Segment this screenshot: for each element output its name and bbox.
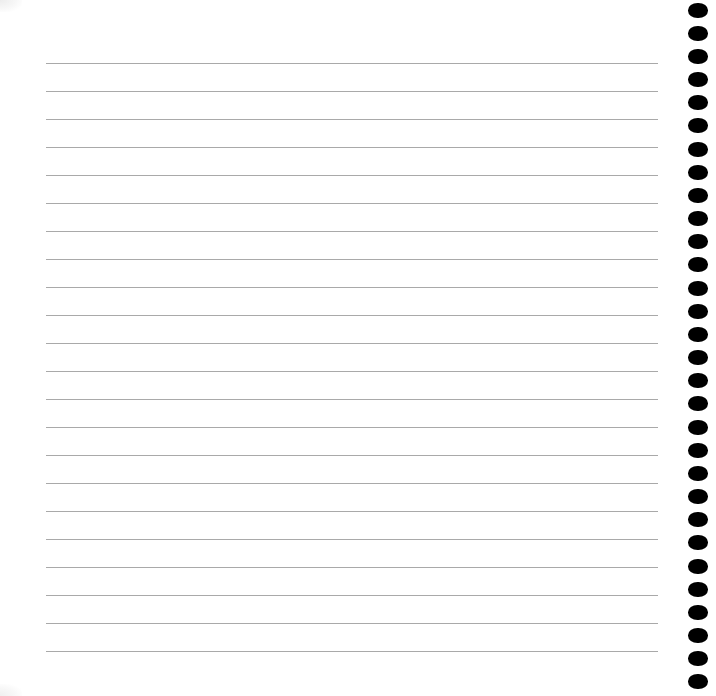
binding-hole-icon: [688, 605, 708, 620]
binding-hole-icon: [688, 142, 708, 157]
ruled-line: [46, 91, 658, 92]
ruled-line: [46, 287, 658, 288]
ruled-line: [46, 651, 658, 652]
binding-hole-icon: [688, 512, 708, 527]
binding-hole-icon: [688, 559, 708, 574]
ruled-line: [46, 315, 658, 316]
ruled-line: [46, 483, 658, 484]
ruled-line: [46, 455, 658, 456]
ruled-line: [46, 119, 658, 120]
notebook-page: [0, 0, 716, 696]
binding-hole-icon: [688, 373, 708, 388]
binding-hole-icon: [688, 327, 708, 342]
binding-hole-icon: [688, 234, 708, 249]
ruled-line: [46, 259, 658, 260]
ruled-line: [46, 595, 658, 596]
ruled-line: [46, 511, 658, 512]
binding-hole-icon: [688, 489, 708, 504]
ruled-line: [46, 399, 658, 400]
binding-hole-icon: [688, 257, 708, 272]
corner-shadow: [0, 0, 22, 12]
binding-hole-icon: [688, 3, 708, 18]
binding-hole-icon: [688, 628, 708, 643]
ruled-line: [46, 231, 658, 232]
binding-hole-icon: [688, 466, 708, 481]
binding-hole-icon: [688, 165, 708, 180]
binding-hole-icon: [688, 582, 708, 597]
ruled-line: [46, 175, 658, 176]
corner-shadow: [0, 684, 22, 696]
ruled-line: [46, 371, 658, 372]
binding-hole-icon: [688, 281, 708, 296]
ruled-line: [46, 203, 658, 204]
binding-hole-icon: [688, 188, 708, 203]
binding-hole-icon: [688, 443, 708, 458]
binding-hole-icon: [688, 26, 708, 41]
ruled-line: [46, 343, 658, 344]
ruled-line: [46, 63, 658, 64]
binding-hole-icon: [688, 420, 708, 435]
binding-hole-icon: [688, 350, 708, 365]
ruled-line: [46, 623, 658, 624]
binding-hole-icon: [688, 304, 708, 319]
ruled-line: [46, 427, 658, 428]
ruled-line: [46, 147, 658, 148]
ruled-line: [46, 539, 658, 540]
ruled-line: [46, 567, 658, 568]
binding-hole-icon: [688, 118, 708, 133]
binding-hole-icon: [688, 535, 708, 550]
binding-hole-icon: [688, 49, 708, 64]
binding-hole-icon: [688, 95, 708, 110]
binding-hole-icon: [688, 674, 708, 689]
binding-hole-icon: [688, 211, 708, 226]
binding-hole-icon: [688, 72, 708, 87]
binding-hole-icon: [688, 651, 708, 666]
binding-hole-icon: [688, 396, 708, 411]
